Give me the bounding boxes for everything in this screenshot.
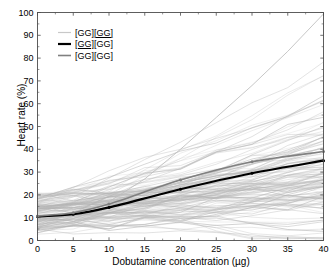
legend-allele-first: [GG] (75, 39, 94, 49)
legend-label: [GG][GG] (75, 39, 113, 49)
y-tick-label: 20 (24, 190, 34, 200)
data-point-marker (108, 203, 111, 206)
y-tick-label: 30 (24, 167, 34, 177)
chart-canvas (0, 0, 332, 275)
y-tick-label: 60 (24, 99, 34, 109)
y-tick-label: 40 (24, 144, 34, 154)
x-tick-label: 10 (104, 244, 114, 254)
x-tick-label: 35 (283, 244, 293, 254)
data-point-marker (179, 188, 182, 191)
data-point-marker (251, 160, 254, 163)
x-axis-title: Dobutamine concentration (µg) (36, 256, 326, 267)
y-tick-label: 50 (24, 122, 34, 132)
legend-allele-second: [GG] (94, 51, 113, 61)
chart-figure: Heart rate (%) Dobutamine concentration … (0, 0, 332, 275)
data-point-marker (179, 179, 182, 182)
legend-allele-first: [GG] (75, 28, 94, 38)
legend-allele-first: [GG] (75, 51, 94, 61)
legend-label: [GG][GG] (75, 28, 113, 38)
y-tick-label: 0 (29, 236, 34, 246)
legend-allele-second: [GG] (94, 28, 113, 38)
data-point-marker (251, 172, 254, 175)
y-tick-label: 100 (19, 8, 34, 18)
x-tick-label: 5 (71, 244, 76, 254)
legend-allele-second: [GG] (94, 39, 113, 49)
x-tick-label: 25 (211, 244, 221, 254)
y-tick-label: 90 (24, 30, 34, 40)
legend-label: [GG][GG] (75, 51, 113, 61)
legend-group (58, 33, 71, 56)
x-tick-label: 20 (176, 244, 186, 254)
data-point-marker (72, 211, 75, 214)
data-point-marker (108, 206, 111, 209)
y-tick-label: 80 (24, 53, 34, 63)
x-tick-label: 0 (35, 244, 40, 254)
y-tick-label: 70 (24, 76, 34, 86)
y-tick-label: 10 (24, 213, 34, 223)
x-tick-label: 40 (319, 244, 329, 254)
x-tick-label: 30 (247, 244, 257, 254)
y-axis-title: Heart rate (%) (16, 55, 30, 175)
x-tick-label: 15 (140, 244, 150, 254)
